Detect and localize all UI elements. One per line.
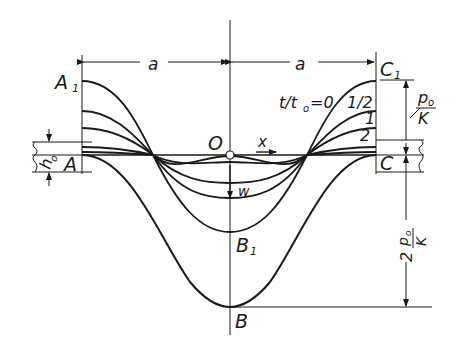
label-w: w: [238, 183, 250, 199]
label-2p0-over-K: 2 p o K: [395, 228, 429, 262]
label-A1-sub: 1: [72, 82, 79, 95]
reference-lines: [32, 20, 432, 335]
label-B1: B: [236, 234, 249, 256]
label-B: B: [235, 310, 248, 332]
svg-text:o: o: [303, 103, 309, 114]
label-C1: C: [380, 58, 394, 80]
break-left: [33, 142, 37, 172]
label-time-param: t/t o =0: [279, 93, 334, 114]
svg-text:p: p: [417, 88, 428, 107]
label-a-left: a: [148, 54, 158, 74]
break-right: [419, 140, 423, 172]
curve-t-near-b1: [82, 152, 376, 232]
deflection-diagram: a a A 1 A C 1 C O x w B 1 B h o t/t o =0…: [0, 0, 461, 349]
origin-circle: [226, 151, 234, 159]
svg-text:p: p: [395, 237, 411, 247]
svg-text:o: o: [403, 230, 413, 236]
label-t-two: 2: [360, 126, 370, 145]
label-A: A: [62, 153, 77, 175]
svg-text:K: K: [413, 235, 429, 246]
svg-text:2: 2: [397, 252, 416, 262]
svg-text:o: o: [428, 97, 434, 108]
svg-text:=0: =0: [310, 93, 334, 112]
curve-family: [82, 81, 376, 307]
label-C1-sub: 1: [394, 69, 401, 82]
label-x: x: [257, 133, 267, 151]
label-A1: A: [53, 71, 68, 93]
label-B1-sub: 1: [250, 245, 257, 258]
label-a-right: a: [295, 54, 305, 74]
svg-text:t/t: t/t: [279, 93, 298, 112]
svg-text:K: K: [418, 109, 430, 128]
curve-final-b: [82, 155, 376, 307]
label-C: C: [380, 152, 394, 174]
label-p0-over-K: p o K: [416, 88, 436, 128]
label-O: O: [208, 132, 223, 154]
